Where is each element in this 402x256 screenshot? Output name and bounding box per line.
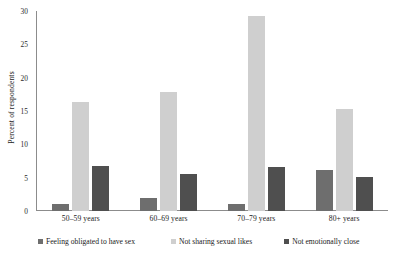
bar[interactable] bbox=[140, 198, 157, 211]
y-axis-tick-label: 20 bbox=[21, 73, 28, 82]
bar[interactable] bbox=[268, 167, 285, 211]
bar[interactable] bbox=[228, 204, 245, 211]
x-axis-tick-label: 80+ years bbox=[300, 214, 388, 228]
bar-group bbox=[37, 11, 125, 211]
x-axis-tick-label: 60–69 years bbox=[125, 214, 213, 228]
bar[interactable] bbox=[160, 92, 177, 211]
legend-label: Feeling obligated to have sex bbox=[46, 237, 135, 246]
bar-groups bbox=[37, 11, 388, 211]
bar[interactable] bbox=[316, 170, 333, 211]
bar-group bbox=[125, 11, 213, 211]
y-axis-tick-label: 30 bbox=[21, 7, 28, 16]
legend-label: Not emotionally close bbox=[292, 237, 359, 246]
x-axis-labels: 50–59 years60–69 years70–79 years80+ yea… bbox=[37, 214, 388, 228]
chart-legend: Feeling obligated to have sexNot sharing… bbox=[30, 234, 390, 248]
legend-item[interactable]: Not sharing sexual likes bbox=[171, 237, 252, 246]
bar-chart: Percent of respondents 051015202530 50–5… bbox=[0, 0, 402, 256]
bar[interactable] bbox=[356, 177, 373, 211]
y-axis-tick-label: 0 bbox=[24, 207, 28, 216]
legend-swatch-icon bbox=[171, 239, 176, 244]
y-axis-tick-label: 15 bbox=[21, 107, 28, 116]
legend-label: Not sharing sexual likes bbox=[179, 237, 252, 246]
legend-item[interactable]: Feeling obligated to have sex bbox=[38, 237, 135, 246]
x-axis-tick-label: 70–79 years bbox=[213, 214, 301, 228]
bar[interactable] bbox=[248, 16, 265, 211]
y-axis-tick-label: 10 bbox=[21, 140, 28, 149]
bar[interactable] bbox=[92, 166, 109, 211]
plot-area: 051015202530 bbox=[36, 11, 388, 211]
bar-group bbox=[213, 11, 301, 211]
bar[interactable] bbox=[72, 102, 89, 211]
x-axis-tick-label: 50–59 years bbox=[37, 214, 125, 228]
legend-swatch-icon bbox=[38, 239, 43, 244]
bar-group bbox=[300, 11, 388, 211]
y-axis-ticks: 051015202530 bbox=[2, 11, 32, 211]
bar[interactable] bbox=[180, 174, 197, 211]
y-axis-tick-label: 25 bbox=[21, 40, 28, 49]
bar[interactable] bbox=[52, 204, 69, 211]
bar[interactable] bbox=[336, 109, 353, 211]
y-axis-tick-label: 5 bbox=[24, 173, 28, 182]
legend-item[interactable]: Not emotionally close bbox=[284, 237, 359, 246]
legend-swatch-icon bbox=[284, 239, 289, 244]
